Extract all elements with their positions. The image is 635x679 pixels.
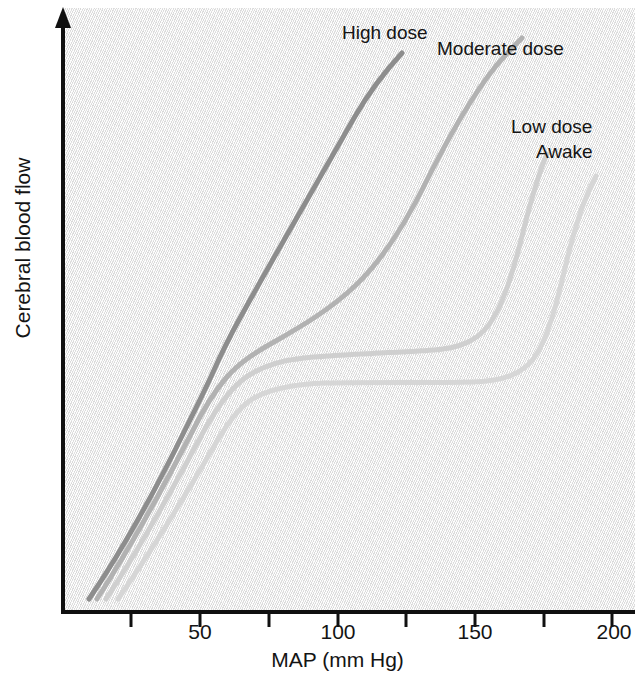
curves-layer xyxy=(64,8,635,612)
series-label-awake: Awake xyxy=(536,141,593,163)
x-tick-label-100: 100 xyxy=(320,620,355,644)
series-label-low-dose: Low dose xyxy=(511,116,592,138)
curve-awake xyxy=(118,176,596,599)
plot-area xyxy=(64,8,635,612)
y-axis-title: Cerebral blood flow xyxy=(11,103,35,393)
curve-high-dose xyxy=(89,53,402,599)
series-label-moderate-dose: Moderate dose xyxy=(437,38,564,60)
curve-moderate-dose xyxy=(97,38,522,599)
x-axis-title-wrap: MAP (mm Hg) xyxy=(0,648,635,672)
x-tick-label-50: 50 xyxy=(188,620,211,644)
x-axis-title: MAP (mm Hg) xyxy=(271,648,404,672)
cerebral-blood-flow-chart: High dose Moderate dose Low dose Awake 5… xyxy=(0,0,635,679)
x-tick-label-150: 150 xyxy=(457,620,492,644)
curve-low-dose xyxy=(106,154,547,599)
series-label-high-dose: High dose xyxy=(342,22,428,44)
x-tick-label-200: 200 xyxy=(596,620,631,644)
